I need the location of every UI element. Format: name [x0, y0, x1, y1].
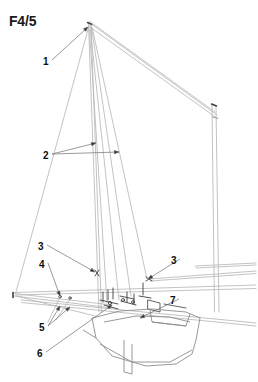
rigging-lines: [13, 21, 256, 326]
figure-canvas: F4/5: [0, 0, 258, 382]
callout-label-6: 6: [37, 348, 43, 359]
callout-label-3-left: 3: [38, 241, 44, 252]
callout-label-5: 5: [39, 322, 45, 333]
callout-label-4: 4: [39, 259, 45, 270]
callout-label-7: 7: [170, 295, 176, 306]
callout-label-1: 1: [43, 56, 49, 67]
callout-label-3-right: 3: [171, 255, 177, 266]
callout-label-2: 2: [43, 150, 49, 161]
